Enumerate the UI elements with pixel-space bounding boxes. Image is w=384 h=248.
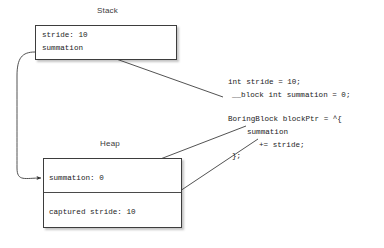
block-literal-code-line-1: BoringBlock blockPtr = ^{ xyxy=(228,115,342,123)
block-literal-code-line-4: }; xyxy=(232,152,241,160)
heap-slot-captured-stride-label: captured stride: 10 xyxy=(49,208,136,216)
block-literal-code-line-3: += stride; xyxy=(259,141,305,149)
heap-region-label: Heap xyxy=(100,139,120,148)
arrow-stack-summation-to-heap-summation xyxy=(17,52,41,179)
block-memory-diagram: Stack stride: 10 summation Heap summatio… xyxy=(0,0,384,248)
stack-slot-stride-label: stride: 10 xyxy=(42,31,88,39)
declaration-code-line-1: int stride = 10; xyxy=(228,78,301,86)
block-literal-code-line-2: summation xyxy=(247,128,288,136)
declaration-code-line-2: __block int summation = 0; xyxy=(232,91,350,99)
heap-box xyxy=(43,158,182,228)
heap-slot-summation-label: summation: 0 xyxy=(49,174,104,182)
stack-region-label: Stack xyxy=(97,6,118,15)
stack-slot-summation-label: summation xyxy=(42,44,83,52)
